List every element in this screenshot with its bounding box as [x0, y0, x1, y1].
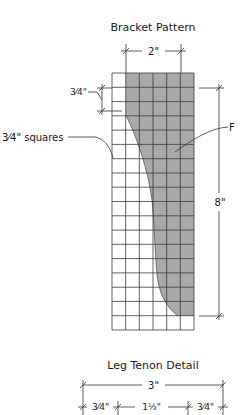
squares-label: 3⁄4" squares [2, 132, 63, 143]
square-dim-label: 3⁄4" [70, 87, 87, 97]
tenon-segment-3-label: 3⁄4" [197, 402, 214, 412]
tenon-segment-2-label: 1½" [142, 402, 161, 412]
bracket-diagram: Bracket Pattern 2" [0, 0, 243, 415]
tenon-title: Leg Tenon Detail [107, 359, 198, 372]
bracket-title: Bracket Pattern [111, 21, 196, 34]
height-dim-label: 8" [215, 197, 226, 208]
bracket-shape [126, 73, 194, 316]
width-dim-label: 2" [148, 46, 159, 57]
shading-label: F [229, 122, 235, 133]
tenon-segment-1-label: 3⁄4" [92, 402, 109, 412]
squares-leader [68, 137, 113, 158]
tenon-overall-label: 3" [148, 380, 159, 391]
square-dimension [88, 84, 122, 115]
